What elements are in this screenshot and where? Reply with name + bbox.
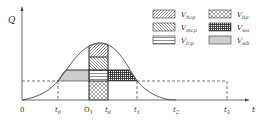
legend-item-mcp: Vmcp <box>153 23 198 34</box>
tick-t2: t2 <box>173 106 179 115</box>
x-axis-arrow-icon <box>245 99 250 102</box>
legend-item-hcp: Vhcp <box>153 10 196 21</box>
region-hcp <box>89 44 108 57</box>
threshold-line <box>22 81 227 100</box>
legend-item-wa: Vwa <box>209 23 249 33</box>
flow-volume-diagram: Q t 0 t0 O1 td t1 t2 t3 Vhcp Vmcp Vlcp V… <box>0 0 262 123</box>
region-wa <box>108 70 137 81</box>
x-axis-label: t <box>252 105 256 114</box>
legend-swatch-grid-dense <box>209 23 231 31</box>
legend-item-bp: Vbp <box>209 10 249 21</box>
axes <box>21 6 251 102</box>
y-axis-arrow-icon <box>21 6 24 11</box>
tick-t0: t0 <box>55 106 62 115</box>
legend-swatch-diag-forward <box>153 10 175 18</box>
tick-t1: t1 <box>134 106 140 115</box>
tick-t3: t3 <box>224 106 230 115</box>
legend-swatch-vertical <box>209 36 231 44</box>
region-lcp <box>89 70 108 81</box>
x-tick-labels: 0 t0 O1 td t1 t2 t3 <box>20 106 230 115</box>
svg-text:Vwb: Vwb <box>237 37 250 46</box>
tick-origin: 0 <box>20 106 24 114</box>
region-bp <box>89 81 108 100</box>
svg-text:Vwa: Vwa <box>237 24 249 33</box>
svg-text:Vlcp: Vlcp <box>181 37 194 47</box>
legend-swatch-crosshatch <box>209 10 231 18</box>
svg-text:Vhcp: Vhcp <box>181 11 196 21</box>
legend-swatch-diag-back <box>153 23 175 31</box>
tick-O1: O1 <box>84 106 93 115</box>
legend-item-lcp: Vlcp <box>153 36 194 47</box>
regions <box>58 44 137 100</box>
legend-swatch-horizontal <box>153 36 175 44</box>
svg-text:Vmcp: Vmcp <box>181 24 198 34</box>
tick-td: td <box>105 106 111 115</box>
y-axis-label: Q <box>8 15 16 25</box>
legend: Vhcp Vmcp Vlcp Vbp Vwa Vwb <box>153 10 250 47</box>
legend-item-wb: Vwb <box>209 36 250 46</box>
svg-text:Vbp: Vbp <box>237 11 249 21</box>
region-mcp <box>89 57 108 70</box>
